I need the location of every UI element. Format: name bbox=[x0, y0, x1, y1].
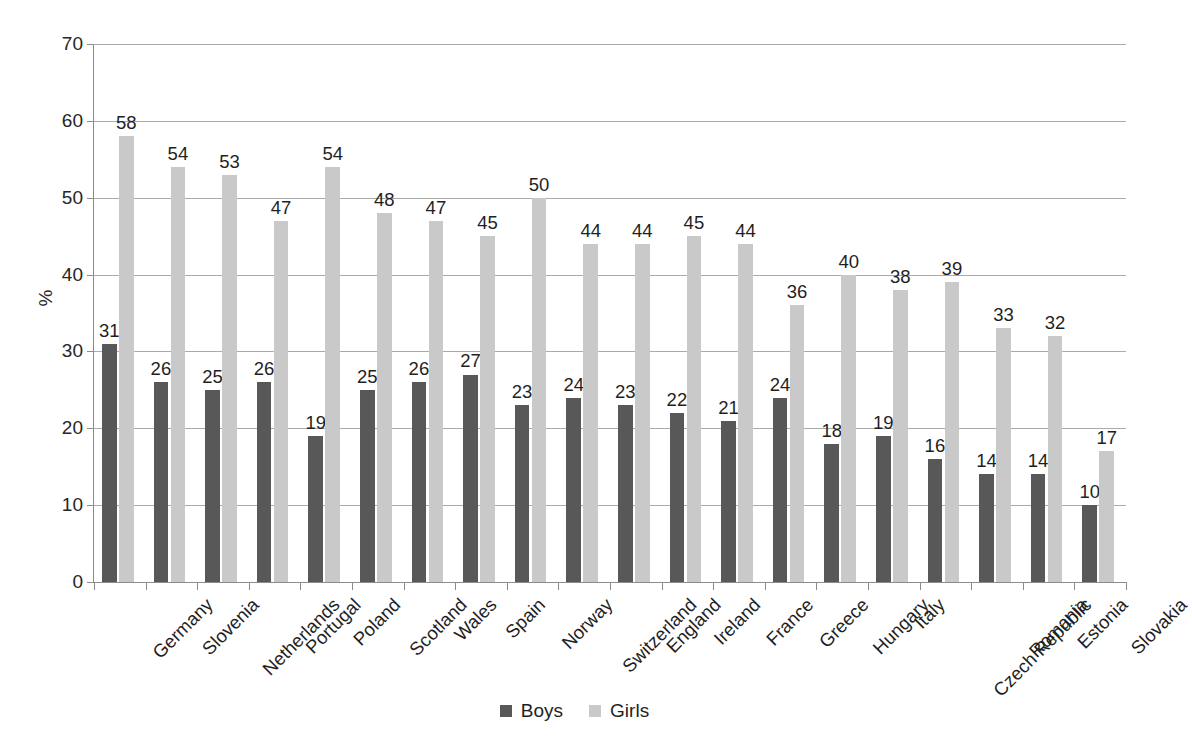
legend-item[interactable]: Boys bbox=[500, 700, 563, 722]
y-axis-tick-label: 40 bbox=[37, 264, 83, 286]
bar-girls[interactable] bbox=[583, 244, 598, 582]
bar-boys[interactable] bbox=[515, 405, 530, 582]
bar-girls[interactable] bbox=[222, 175, 237, 582]
bar-boys[interactable] bbox=[360, 390, 375, 582]
y-axis-tick-label: 70 bbox=[37, 33, 83, 55]
x-axis-tick-mark bbox=[94, 582, 95, 590]
x-axis-tick-mark bbox=[455, 582, 456, 590]
bar-boys[interactable] bbox=[670, 413, 685, 582]
x-axis-tick-mark bbox=[816, 582, 817, 590]
x-axis-tick-mark bbox=[300, 582, 301, 590]
bar-value-label: 45 bbox=[671, 212, 717, 234]
bar-value-label: 58 bbox=[103, 112, 149, 134]
x-axis-category-label: Spain bbox=[501, 594, 550, 643]
bar-girls[interactable] bbox=[687, 236, 702, 582]
x-axis-tick-mark bbox=[1126, 582, 1127, 590]
bar-girls[interactable] bbox=[429, 221, 444, 582]
y-axis-tick-label: 60 bbox=[37, 110, 83, 132]
x-axis-tick-mark bbox=[507, 582, 508, 590]
bar-boys[interactable] bbox=[979, 474, 994, 582]
x-axis-tick-mark bbox=[765, 582, 766, 590]
gridline bbox=[94, 44, 1126, 45]
x-axis-tick-mark bbox=[197, 582, 198, 590]
bar-value-label: 40 bbox=[826, 251, 872, 273]
bar-boys[interactable] bbox=[154, 382, 169, 582]
gridline bbox=[94, 505, 1126, 506]
bar-value-label: 17 bbox=[1084, 427, 1130, 449]
plot-area: 0102030405060703158Germany2654Slovenia25… bbox=[93, 44, 1126, 582]
bar-girls[interactable] bbox=[841, 275, 856, 582]
bar-value-label: 44 bbox=[619, 220, 665, 242]
y-axis-tick-label: 20 bbox=[37, 417, 83, 439]
bar-girls[interactable] bbox=[1099, 451, 1114, 582]
legend-item[interactable]: Girls bbox=[589, 700, 649, 722]
legend-label: Boys bbox=[521, 700, 563, 722]
x-axis-tick-mark bbox=[1023, 582, 1024, 590]
y-axis-tick-label: 30 bbox=[37, 340, 83, 362]
bar-boys[interactable] bbox=[463, 375, 478, 583]
bar-boys[interactable] bbox=[1031, 474, 1046, 582]
bar-boys[interactable] bbox=[102, 344, 117, 582]
bar-girls[interactable] bbox=[790, 305, 805, 582]
bar-boys[interactable] bbox=[205, 390, 220, 582]
gridline bbox=[94, 198, 1126, 199]
bar-boys[interactable] bbox=[928, 459, 943, 582]
bar-boys[interactable] bbox=[876, 436, 891, 582]
x-axis-tick-mark bbox=[662, 582, 663, 590]
bar-value-label: 38 bbox=[877, 266, 923, 288]
bar-value-label: 54 bbox=[310, 143, 356, 165]
x-axis-tick-mark bbox=[713, 582, 714, 590]
bar-value-label: 39 bbox=[929, 258, 975, 280]
bar-boys[interactable] bbox=[721, 421, 736, 582]
bar-boys[interactable] bbox=[824, 444, 839, 582]
bar-girls[interactable] bbox=[532, 198, 547, 582]
x-axis-category-label: Greece bbox=[814, 594, 872, 652]
y-axis-tick-mark bbox=[87, 44, 94, 45]
bar-girls[interactable] bbox=[996, 328, 1011, 582]
x-axis-category-label: Slovakia bbox=[1127, 594, 1192, 659]
bar-girls[interactable] bbox=[480, 236, 495, 582]
x-axis-tick-mark bbox=[868, 582, 869, 590]
bar-girls[interactable] bbox=[893, 290, 908, 582]
bar-boys[interactable] bbox=[773, 398, 788, 582]
bar-girls[interactable] bbox=[274, 221, 289, 582]
y-axis-tick-mark bbox=[87, 505, 94, 506]
bar-value-label: 54 bbox=[155, 143, 201, 165]
x-axis-tick-mark bbox=[146, 582, 147, 590]
bar-boys[interactable] bbox=[412, 382, 427, 582]
chart-legend: BoysGirls bbox=[0, 700, 1149, 722]
legend-swatch-icon bbox=[500, 705, 512, 717]
bar-value-label: 53 bbox=[207, 151, 253, 173]
bar-value-label: 33 bbox=[981, 304, 1027, 326]
y-axis-tick-mark bbox=[87, 121, 94, 122]
legend-label: Girls bbox=[610, 700, 649, 722]
y-axis-tick-label: 0 bbox=[37, 571, 83, 593]
y-axis-tick-mark bbox=[87, 351, 94, 352]
y-axis-tick-mark bbox=[87, 582, 94, 583]
y-axis-tick-label: 10 bbox=[37, 494, 83, 516]
bar-girls[interactable] bbox=[171, 167, 186, 582]
y-axis-tick-mark bbox=[87, 198, 94, 199]
bar-girls[interactable] bbox=[325, 167, 340, 582]
bar-boys[interactable] bbox=[1082, 505, 1097, 582]
bar-girls[interactable] bbox=[119, 136, 134, 582]
bar-boys[interactable] bbox=[257, 382, 272, 582]
gridline bbox=[94, 121, 1126, 122]
x-axis-tick-mark bbox=[610, 582, 611, 590]
bar-boys[interactable] bbox=[308, 436, 323, 582]
bar-boys[interactable] bbox=[618, 405, 633, 582]
gridline bbox=[94, 351, 1126, 352]
bar-girls[interactable] bbox=[945, 282, 960, 582]
x-axis-category-label: France bbox=[762, 594, 818, 650]
bar-girls[interactable] bbox=[377, 213, 392, 582]
y-axis-tick-label: 50 bbox=[37, 187, 83, 209]
bar-value-label: 44 bbox=[723, 220, 769, 242]
bar-girls[interactable] bbox=[738, 244, 753, 582]
bar-girls[interactable] bbox=[1048, 336, 1063, 582]
x-axis-tick-mark bbox=[404, 582, 405, 590]
bar-value-label: 44 bbox=[568, 220, 614, 242]
bar-girls[interactable] bbox=[635, 244, 650, 582]
bar-value-label: 48 bbox=[361, 189, 407, 211]
bar-value-label: 47 bbox=[413, 197, 459, 219]
bar-boys[interactable] bbox=[566, 398, 581, 582]
